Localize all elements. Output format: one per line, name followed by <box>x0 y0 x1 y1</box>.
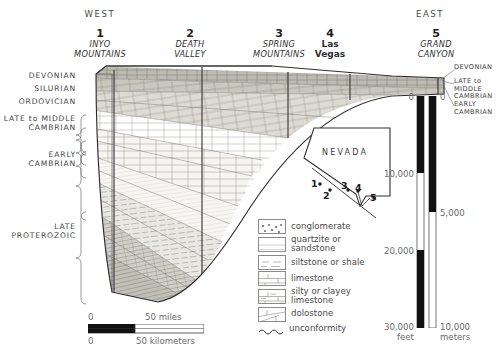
scale-km-zero: 0 <box>88 336 93 346</box>
scale-feet-tick-30000: 30,000 <box>374 322 414 332</box>
legend-item-silty-limestone: silty or clayey limestone <box>258 287 398 306</box>
scale-meters-tick-10000: 10,000 <box>440 322 470 332</box>
swatch-siltstone <box>258 255 286 270</box>
inset-point-3: 3 <box>341 180 348 191</box>
swatch-conglomerate <box>258 219 286 234</box>
legend-label: unconformity <box>289 324 346 333</box>
compass-west: WEST <box>70 9 130 19</box>
nevada-outline <box>304 128 390 206</box>
location-name: Las Vegas <box>300 40 360 59</box>
inset-point-4: 4 <box>355 182 362 193</box>
scale-feet-unit: feet <box>374 332 414 342</box>
swatch-limestone <box>258 271 286 286</box>
swatch-silty-limestone <box>258 289 286 304</box>
period-label-ordovician: ORDOVICIAN <box>2 97 76 106</box>
scale-bar-graphic <box>88 324 204 334</box>
scale-meters-tick-0: 0 <box>440 92 445 102</box>
vertical-scale-meters-bar <box>428 96 438 328</box>
period-label-silurian: SILURIAN <box>2 84 76 93</box>
scale-meters-tick-5000: 5,000 <box>440 208 465 218</box>
scale-feet-tick-0: 0 <box>404 92 414 102</box>
location-name: GRAND CANYON <box>398 40 474 59</box>
scale-meters-unit: meters <box>440 332 470 342</box>
scale-feet-tick-20000: 20,000 <box>374 246 414 256</box>
period-label-late-middle-cambrian: LATE to MIDDLE CAMBRIAN <box>2 114 76 132</box>
inset-state-label: NEVADA <box>322 148 368 157</box>
inset-point-2: 2 <box>323 190 330 201</box>
legend-item-siltstone: siltstone or shale <box>258 255 398 270</box>
right-period-devonian: DEVONIAN <box>454 64 501 72</box>
legend-label: quartzite or sandstone <box>291 235 341 254</box>
right-period-early-cambrian: EARLY CAMBRIAN <box>454 101 501 116</box>
period-braces <box>76 62 90 312</box>
horizontal-scale-bar: 0 50 miles 0 50 kilometers <box>88 312 253 352</box>
legend-item-conglomerate: conglomerate <box>258 219 398 234</box>
location-name: DEATH VALLEY <box>152 40 228 59</box>
compass-east: EAST <box>400 9 460 19</box>
swatch-quartzite <box>258 237 286 252</box>
scale-km-max: 50 kilometers <box>136 336 195 346</box>
location-header-5: 5 GRAND CANYON <box>398 28 474 59</box>
inset-point-5: 5 <box>370 192 377 203</box>
location-name: INYO MOUNTAINS <box>62 40 138 59</box>
legend-label: siltstone or shale <box>291 258 365 267</box>
legend-label: silty or clayey limestone <box>291 287 351 306</box>
vertical-scale-feet-bar <box>416 96 426 328</box>
legend-label: conglomerate <box>291 222 351 231</box>
scale-feet-tick-10000: 10,000 <box>374 169 414 179</box>
period-label-devonian: DEVONIAN <box>2 71 76 80</box>
scale-miles-max: 50 miles <box>145 312 182 322</box>
location-header-2: 2 DEATH VALLEY <box>152 28 228 59</box>
scale-miles-zero: 0 <box>88 312 93 322</box>
legend-label: limestone <box>291 274 333 283</box>
swatch-dolostone <box>258 307 286 322</box>
swatch-unconformity <box>258 323 284 336</box>
legend-label: dolostone <box>291 309 333 318</box>
legend: conglomerate quartzite or sandstone silt… <box>258 219 398 337</box>
right-period-late-middle-cambrian: LATE to MIDDLE CAMBRIAN <box>454 78 501 101</box>
location-header-4: 4 Las Vegas <box>300 28 360 59</box>
legend-item-limestone: limestone <box>258 271 398 286</box>
period-label-early-cambrian: EARLY CAMBRIAN <box>2 150 76 168</box>
legend-item-dolostone: dolostone <box>258 307 398 322</box>
inset-point-1: 1 <box>311 178 318 189</box>
location-header-1: 1 INYO MOUNTAINS <box>62 28 138 59</box>
period-label-late-proterozoic: LATE PROTEROZOIC <box>2 222 76 240</box>
